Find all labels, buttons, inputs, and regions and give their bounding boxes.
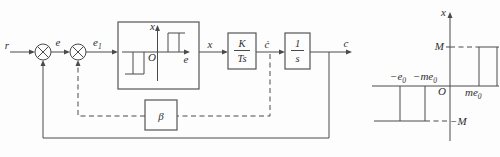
e1-subscript: 1 [98,42,102,51]
gain-numerator: K [237,38,246,49]
gain-block: K Ts [228,33,256,69]
me0-subscript: 0 [478,92,482,101]
arrowhead-icon [155,25,160,31]
neg-me0-base: −me [413,70,433,82]
neg-e0-label: −e0 [390,70,406,85]
figure-canvas: x e O K Ts 1 s β [0,0,500,157]
sum-cross-icon [72,46,83,57]
neg-e0-subscript: 0 [402,76,406,85]
e1-signal-label: e1 [93,36,102,51]
arrowhead-icon [279,50,285,55]
input-signal-label: r [5,39,10,51]
arrowhead-icon [222,50,228,55]
control-system-figure: x e O K Ts 1 s β [0,0,500,157]
nl-inset-lower-loop [125,52,144,74]
relay-characteristic-plot: x M O −M −e0 −me0 me0 [372,6,499,141]
arrowhead-icon [448,12,453,18]
beta-label: β [157,110,164,122]
output-signal-label: c [344,37,349,49]
arrowhead-icon [29,50,35,55]
gain-denominator: Ts [238,53,247,64]
summing-junction-1 [35,44,51,60]
beta-block: β [145,100,177,130]
integrator-denominator: s [295,53,299,64]
block-diagram: x e O K Ts 1 s β [5,20,352,138]
nl-inset-upper-loop [168,33,185,52]
neg-m-label: −M [450,115,467,127]
rate-feedback-return-line [78,64,145,116]
summing-junction-2 [70,44,86,60]
neg-me0-label: −me0 [413,70,437,85]
nl-inset-origin-label: O [148,51,156,63]
m-label: M [434,40,445,52]
neg-e0-base: −e [390,70,402,82]
cdot-signal-label: ċ [265,38,270,50]
arrowhead-icon [64,50,70,55]
plot-vaxis-label: x [440,6,446,18]
me0-base: me [465,86,478,98]
arrowhead-icon [76,60,81,66]
neg-me0-subscript: 0 [433,76,437,85]
integrator-block: 1 s [285,33,310,69]
nonlinearity-block: x e O [118,20,199,89]
nl-inset-vaxis-label: x [149,20,155,32]
arrowhead-icon [112,50,118,55]
nl-output-signal-label: x [207,38,213,50]
plot-origin-label: O [438,85,446,97]
me0-label: me0 [465,86,482,101]
integrator-numerator: 1 [295,38,300,49]
sum-cross-icon [37,46,48,57]
error-signal-label: e [56,36,61,48]
nl-inset-haxis-label: e [184,53,189,65]
arrowhead-icon [346,50,352,55]
arrowhead-icon [41,60,46,66]
